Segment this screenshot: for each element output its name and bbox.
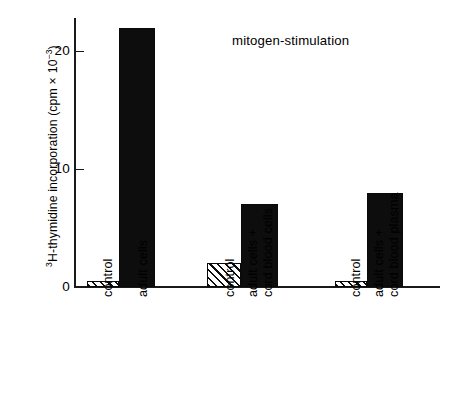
y-tick-label-0: 0 [44, 280, 70, 294]
y-tick-10 [76, 169, 84, 171]
xlabel-group1-adult-cells-line1: adult cells [137, 240, 150, 297]
y-axis-title-times: × [46, 77, 60, 85]
y-axis-line [74, 18, 76, 288]
xlabel-group3-treatment-line2: cord blood plasma [388, 192, 401, 297]
y-axis-title-base: 10 [46, 59, 60, 76]
y-axis-title-isotope-superscript: 3 [44, 262, 54, 267]
chart-annotation: mitogen-stimulation [232, 33, 349, 48]
xlabel-group3-treatment-line1: adult cells + [373, 229, 386, 297]
y-tick-0 [76, 286, 84, 288]
bar-chart-figure: 3H-thymidine incorporation (cpm × 10−3) … [0, 0, 453, 414]
xlabel-group2-treatment-line2: cord blood cells [262, 208, 275, 297]
y-axis-title: 3H-thymidine incorporation (cpm × 10−3) [44, 16, 60, 296]
y-tick-20 [76, 51, 84, 53]
xlabel-group2-treatment-line1: adult cells + [247, 229, 260, 297]
xlabel-group1-control-line1: control [102, 259, 115, 298]
y-tick-label-20: 20 [44, 44, 70, 58]
y-tick-label-10: 10 [44, 162, 70, 176]
xlabel-group2-control-line1: control [224, 259, 237, 298]
xlabel-group3-control-line1: control [350, 259, 363, 298]
